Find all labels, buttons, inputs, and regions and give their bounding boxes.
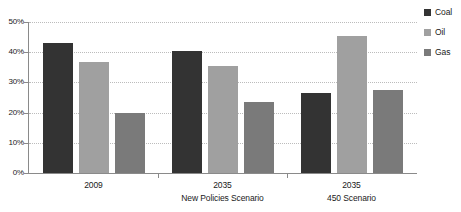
legend-item-gas: Gas: [424, 48, 461, 57]
bar-coal-1: [43, 43, 73, 173]
x-axis-group-label: 2035450 Scenario: [287, 174, 416, 203]
y-axis-label: 40%: [9, 48, 24, 56]
legend-swatch-icon: [424, 9, 431, 16]
x-axis-separator-tick: [158, 174, 159, 178]
bar-coal-2: [172, 51, 202, 173]
bar-gas-1: [115, 113, 145, 173]
x-axis-group-label: 2035New Policies Scenario: [158, 174, 287, 203]
y-axis-label: 30%: [9, 78, 24, 86]
y-axis: 50% 40% 30% 20% 10% 0%: [0, 22, 24, 173]
x-axis-group-year: 2035: [158, 181, 287, 190]
legend-label: Gas: [435, 48, 450, 57]
legend-swatch-icon: [424, 29, 431, 36]
bar-series-container: [29, 22, 416, 173]
bar-coal-3: [301, 93, 331, 173]
y-axis-label: 50%: [9, 18, 24, 26]
x-axis-group-scenario: 450 Scenario: [287, 194, 416, 203]
legend-label: Oil: [435, 28, 445, 37]
bar-gas-3: [373, 90, 403, 173]
x-axis-group-scenario: New Policies Scenario: [158, 194, 287, 203]
y-axis-label: 10%: [9, 139, 24, 147]
bar-oil-3: [337, 36, 367, 173]
x-axis: 20092035New Policies Scenario2035450 Sce…: [29, 174, 416, 212]
legend-item-coal: Coal: [424, 8, 461, 17]
legend-item-oil: Oil: [424, 28, 461, 37]
x-axis-separator-tick: [287, 174, 288, 178]
chart-legend: CoalOilGas: [424, 8, 461, 68]
y-axis-label: 0%: [13, 169, 24, 177]
bar-oil-1: [79, 62, 109, 173]
x-axis-group-label: 2009: [29, 174, 158, 190]
legend-swatch-icon: [424, 49, 431, 56]
x-axis-group-year: 2035: [287, 181, 416, 190]
y-axis-label: 20%: [9, 109, 24, 117]
bar-oil-2: [208, 66, 238, 173]
bar-gas-2: [244, 102, 274, 173]
bar-chart: 50% 40% 30% 20% 10% 0% 20092035New Polic…: [0, 0, 461, 212]
legend-label: Coal: [435, 8, 452, 17]
x-axis-group-year: 2009: [29, 181, 158, 190]
